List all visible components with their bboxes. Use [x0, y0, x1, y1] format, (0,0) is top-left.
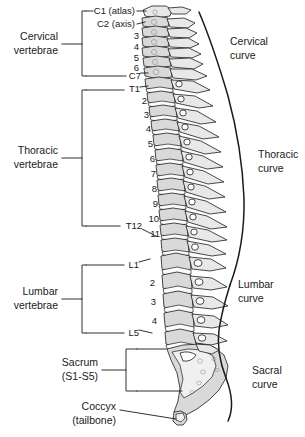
- vertebra-label-c2: C2 (axis): [97, 18, 135, 29]
- lumbar-curve-line2: curve: [238, 292, 264, 304]
- region-label-sacrum: Sacrum (S1-S5): [62, 356, 98, 382]
- vertebra-label-t12: T12: [126, 220, 142, 231]
- vertebra-label-l3: 3: [151, 296, 156, 307]
- curve-label-lumbar: Lumbar curve: [238, 278, 274, 304]
- vertebra-label-c1: C1 (atlas): [94, 5, 135, 16]
- cervical-vertebrae-bones: [142, 6, 207, 80]
- lumbar-label-line2: vertebrae: [14, 299, 59, 311]
- vertebra-label-l4: 4: [152, 315, 157, 326]
- vertebra-label-c3: 3: [134, 30, 139, 41]
- l1-leader-right: [139, 259, 150, 262]
- lumbar-leaders: [86, 259, 152, 333]
- region-label-cervical: Cervical vertebrae: [14, 30, 59, 56]
- coccyx-label-line1: Coccyx: [82, 400, 117, 412]
- vertebra-label-t8: 8: [152, 183, 157, 194]
- region-label-lumbar: Lumbar vertebrae: [14, 285, 59, 311]
- thoracic-bracket: [62, 90, 86, 226]
- vertebra-label-c7: C7: [129, 70, 141, 81]
- vertebra-label-l1: L1: [128, 259, 139, 270]
- lumbar-bracket: [62, 265, 86, 333]
- cervical-label-line1: Cervical: [20, 30, 58, 42]
- vertebra-label-t10: 10: [148, 213, 159, 224]
- vertebra-label-t1: T1: [129, 83, 140, 94]
- cervical-bracket: [62, 11, 86, 76]
- vertebra-label-t9: 9: [153, 198, 158, 209]
- sacrum-label-line2: (S1-S5): [62, 370, 98, 382]
- spine-anatomy-figure: Cervical vertebrae Thoracic vertebrae Lu…: [0, 0, 305, 437]
- vertebra-label-t7: 7: [151, 168, 156, 179]
- curve-label-cervical: Cervical curve: [230, 35, 268, 61]
- region-label-coccyx: Coccyx (tailbone): [72, 400, 117, 426]
- coccyx-bone: [173, 411, 187, 425]
- vertebra-label-t2: 2: [142, 95, 147, 106]
- cervical-curve-line2: curve: [230, 49, 256, 61]
- spine-diagram-svg: Cervical vertebrae Thoracic vertebrae Lu…: [0, 0, 305, 437]
- l5-leader-right: [139, 330, 152, 333]
- coccyx-label-line2: (tailbone): [72, 414, 116, 426]
- thoracic-label-line1: Thoracic: [18, 144, 58, 156]
- lumbar-label-line1: Lumbar: [22, 285, 58, 297]
- vertebra-label-l2: 2: [150, 277, 155, 288]
- thoracic-label-line2: vertebrae: [14, 158, 59, 170]
- sacrum-bracket: [102, 349, 137, 391]
- vertebra-label-t5: 5: [148, 138, 153, 149]
- sacral-curve-line1: Sacral: [252, 364, 282, 376]
- vertebra-label-c4: 4: [134, 41, 139, 52]
- curve-label-thoracic: Thoracic curve: [258, 148, 298, 174]
- sacral-curve-line2: curve: [252, 378, 278, 390]
- curve-label-sacral: Sacral curve: [252, 364, 282, 390]
- vertebra-label-t3: 3: [144, 109, 149, 120]
- thoracic-curve-line1: Thoracic: [258, 148, 298, 160]
- lumbar-curve-line1: Lumbar: [238, 278, 274, 290]
- vertebra-label-t6: 6: [150, 153, 155, 164]
- sacrum-label-line1: Sacrum: [62, 356, 98, 368]
- cervical-vertebra-labels: C1 (atlas) C2 (axis) 3 4 5 6 C7: [94, 5, 141, 81]
- lumbar-vertebra-labels: L1 2 3 4 L5: [128, 259, 157, 338]
- vertebra-label-t4: 4: [146, 123, 151, 134]
- vertebra-label-l5: L5: [128, 327, 139, 338]
- thoracic-curve-line2: curve: [258, 162, 284, 174]
- cervical-curve-line1: Cervical: [230, 35, 268, 47]
- coccyx-leader: [120, 410, 176, 419]
- region-label-thoracic: Thoracic vertebrae: [14, 144, 59, 170]
- vertebra-label-t11: 11: [150, 228, 160, 239]
- cervical-label-line2: vertebrae: [14, 44, 59, 56]
